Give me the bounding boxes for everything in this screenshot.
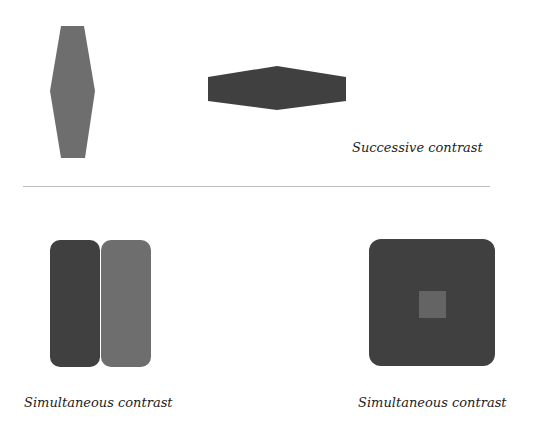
vertical-hexagon: [50, 26, 95, 158]
simultaneous-contrast-caption-right: Simultaneous contrast: [358, 395, 507, 410]
dark-rounded-rect: [50, 240, 100, 367]
section-divider: [23, 186, 490, 187]
inner-square: [419, 291, 446, 318]
light-rounded-rect: [101, 240, 151, 367]
simultaneous-contrast-caption-left: Simultaneous contrast: [24, 395, 173, 410]
horizontal-hexagon: [208, 66, 346, 110]
successive-contrast-caption: Successive contrast: [352, 140, 483, 155]
